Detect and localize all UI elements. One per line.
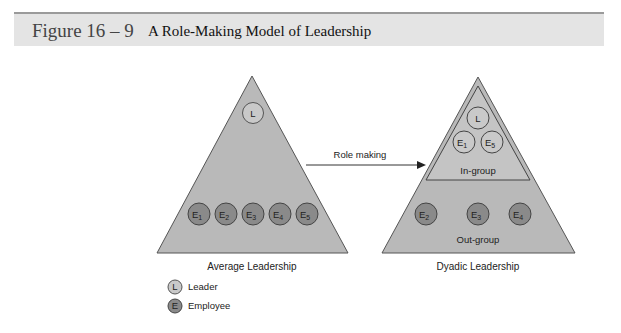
in-group-employee-node: E5	[481, 131, 503, 153]
role-making-arrow: Role making	[306, 149, 426, 169]
svg-text:L: L	[172, 281, 177, 292]
in-group-label: In-group	[460, 165, 495, 176]
role-making-diagram: L E1E2E3E4E5 Average Leadership Role mak…	[0, 0, 621, 333]
average-leader-node: L	[243, 103, 264, 124]
employee-node: E3	[242, 203, 264, 225]
out-group-employee-node: E2	[415, 203, 437, 225]
svg-text:Employee: Employee	[188, 300, 230, 311]
svg-text:Leader: Leader	[188, 281, 218, 292]
in-group-leader-node: L	[467, 107, 489, 129]
employee-node: E5	[296, 203, 318, 225]
employee-node: E1	[188, 203, 210, 225]
employee-node: E4	[269, 203, 291, 225]
in-group-employee-node: E1	[453, 131, 475, 153]
legend-employee: E Employee	[168, 299, 230, 313]
svg-text:L: L	[250, 108, 255, 119]
out-group-label: Out-group	[457, 234, 500, 245]
average-leadership-caption: Average Leadership	[207, 261, 297, 272]
role-making-label: Role making	[334, 149, 387, 160]
dyadic-leadership-caption: Dyadic Leadership	[437, 261, 520, 272]
employee-node: E2	[215, 203, 237, 225]
legend-leader: L Leader	[168, 280, 218, 294]
svg-text:E: E	[172, 300, 178, 311]
svg-text:L: L	[475, 113, 480, 124]
out-group-employee-node: E4	[509, 203, 531, 225]
out-group-employee-node: E3	[467, 203, 489, 225]
